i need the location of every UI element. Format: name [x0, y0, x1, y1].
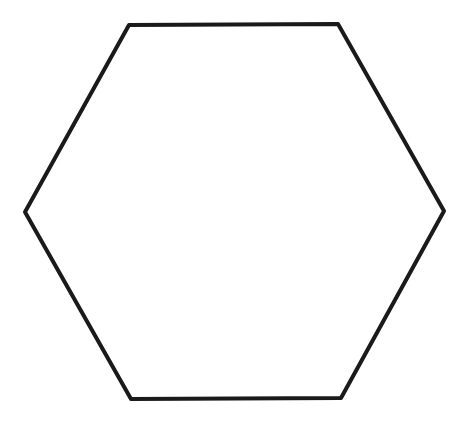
hexagon-figure: [0, 0, 469, 425]
hexagon-shape: [25, 24, 444, 399]
diagram-canvas: [0, 0, 469, 425]
